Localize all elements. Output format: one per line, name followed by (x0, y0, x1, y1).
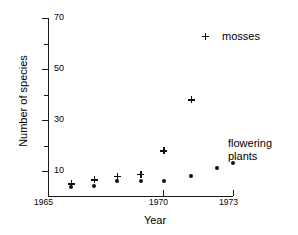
x-tick-1973 (233, 190, 234, 196)
x-tick-1970 (163, 190, 164, 196)
annotation-flowering-plants: flowering plants (228, 137, 272, 162)
scatter-chart: 70 50 30 10 1965 1970 1973 Number of spe… (0, 0, 298, 235)
data-point-flowering-plants-6 (215, 166, 219, 170)
y-tick-60 (44, 44, 48, 45)
x-axis-title: Year (100, 214, 210, 226)
y-tick-50 (42, 69, 48, 70)
annotation-line-2: plants (228, 150, 272, 163)
plus-marker-icon (202, 33, 209, 40)
data-point-mosses-4 (160, 147, 167, 154)
data-point-flowering-plants-3 (139, 179, 143, 183)
annotation-line-1: flowering (228, 137, 272, 150)
y-tick-label-30: 30 (54, 115, 64, 124)
data-point-mosses-3 (137, 171, 144, 178)
y-tick-40 (44, 95, 48, 96)
y-tick-30 (42, 120, 48, 121)
data-point-flowering-plants-5 (189, 174, 193, 178)
x-tick-1965 (48, 190, 49, 196)
data-point-flowering-plants-4 (162, 179, 166, 183)
y-tick-label-10: 10 (54, 166, 64, 175)
x-tick-label-1973: 1973 (219, 198, 238, 207)
y-tick-label-70: 70 (54, 13, 64, 22)
x-tick-label-1965: 1965 (34, 198, 53, 207)
data-point-flowering-plants-2 (115, 179, 119, 183)
data-point-mosses-1 (91, 176, 98, 183)
y-tick-label-50: 50 (54, 64, 64, 73)
y-tick-70 (42, 18, 48, 19)
x-axis-line (48, 196, 233, 197)
y-tick-20 (44, 146, 48, 147)
x-tick-label-1970: 1970 (149, 198, 168, 207)
y-tick-10 (42, 171, 48, 172)
data-point-mosses-5 (188, 96, 195, 103)
legend-label-mosses: mosses (222, 30, 260, 42)
data-point-flowering-plants-0 (69, 185, 73, 189)
y-axis-title: Number of species (17, 31, 29, 171)
data-point-flowering-plants-1 (92, 184, 96, 188)
y-axis-line (48, 18, 49, 196)
